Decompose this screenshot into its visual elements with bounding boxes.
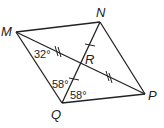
vertex-label-p: P [148, 88, 157, 103]
geometry-diagram: M N P Q R 32° 58° 58° [0, 0, 164, 128]
vertex-label-q: Q [51, 107, 61, 122]
angle-label-q-lower: 58° [70, 89, 87, 101]
intersection-label-r: R [85, 52, 94, 67]
side-mn [16, 22, 100, 32]
angle-label-m: 32° [34, 48, 51, 60]
angle-label-q-upper: 58° [52, 78, 69, 90]
vertex-label-n: N [96, 5, 106, 20]
vertex-label-m: M [1, 24, 12, 39]
